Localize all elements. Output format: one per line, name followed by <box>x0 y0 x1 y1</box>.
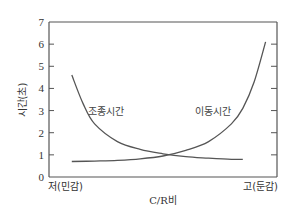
y-tick-label: 7 <box>39 16 45 28</box>
control-time-label: 조종시간 <box>88 106 124 117</box>
y-tick-label: 0 <box>39 171 45 183</box>
x-axis-title: C/R비 <box>149 195 177 206</box>
control-time-curve <box>72 75 243 159</box>
y-tick-label: 3 <box>39 105 45 117</box>
y-ticks-right <box>271 44 277 155</box>
x-low-label: 저(민감) <box>48 181 83 192</box>
y-tick-label: 1 <box>39 149 45 161</box>
y-ticks-left <box>49 44 54 155</box>
travel-time-label: 이동시간 <box>195 106 231 117</box>
x-high-label: 고(둔감) <box>243 181 278 192</box>
y-tick-label: 6 <box>39 38 45 50</box>
y-axis-title: 시간(초) <box>17 83 28 118</box>
y-tick-label: 5 <box>39 60 45 72</box>
chart: 01234567 조종시간 이동시간 시간(초) 저(민감) 고(둔감) C/R… <box>0 0 292 218</box>
y-tick-label: 2 <box>39 127 45 139</box>
y-tick-labels: 01234567 <box>39 16 45 183</box>
travel-time-curve <box>72 42 266 162</box>
y-tick-label: 4 <box>39 82 45 94</box>
